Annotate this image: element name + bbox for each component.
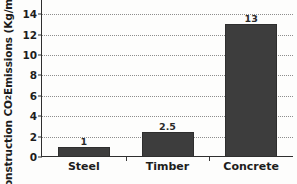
- x-axis-tick-mark: [126, 157, 127, 161]
- y-axis-title-prefix: Construction CO: [2, 100, 14, 184]
- bar-value-label: 2.5: [159, 121, 176, 132]
- y-axis-tick-label: 14: [22, 8, 37, 20]
- y-axis-title: Construction CO2 Emissions (Kg/m2): [0, 0, 16, 184]
- bar-chart: Construction CO2 Emissions (Kg/m2) 02468…: [0, 0, 297, 184]
- bar: 2.5: [142, 132, 194, 158]
- y-axis-tick-label: 12: [22, 29, 37, 41]
- bar-value-label: 13: [245, 13, 258, 24]
- y-axis-tick-label: 6: [30, 90, 37, 102]
- y-axis-tick-label: 4: [30, 110, 37, 122]
- x-axis-tick-mark: [209, 157, 210, 161]
- y-axis-line: [41, 0, 42, 157]
- y-axis-title-subscript: 2: [4, 95, 13, 100]
- x-axis-category-label: Concrete: [223, 160, 279, 173]
- bar-value-label: 1: [81, 136, 88, 147]
- y-axis-tick-label: 8: [30, 69, 37, 81]
- bar: 13: [225, 24, 277, 157]
- x-axis-category-label: Timber: [146, 160, 190, 173]
- x-axis-category-label: Steel: [68, 160, 100, 173]
- y-axis-tick-label: 2: [30, 131, 37, 143]
- x-axis-line: [41, 156, 293, 157]
- y-axis-tick-label: 0: [30, 151, 37, 163]
- y-axis-tick-label: 10: [22, 49, 37, 61]
- plot-area: 02468101214 12.513: [42, 8, 293, 157]
- y-axis-title-middle: Emissions (Kg/m: [2, 0, 14, 95]
